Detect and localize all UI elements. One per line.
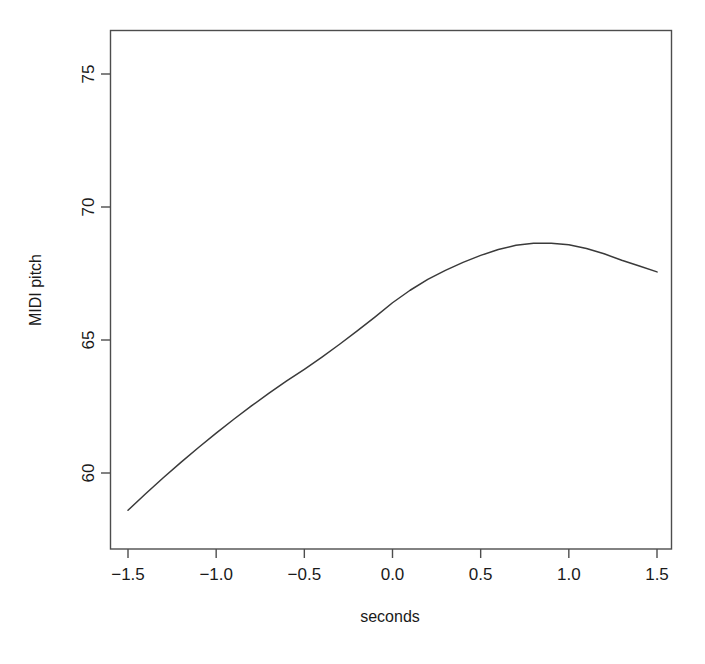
y-tick-label: 75	[79, 65, 98, 84]
x-axis-title: seconds	[360, 608, 420, 625]
x-tick-label: 1.0	[557, 565, 581, 584]
y-axis-tick-labels: 60657075	[79, 65, 98, 483]
x-tick-label: −1.0	[199, 565, 233, 584]
y-tick-label: 70	[79, 198, 98, 217]
y-tick-label: 65	[79, 331, 98, 350]
y-tick-label: 60	[79, 464, 98, 483]
data-series-line	[128, 243, 657, 510]
plot-border	[111, 31, 672, 550]
chart-figure: −1.5−1.0−0.50.00.51.01.5 60657075 second…	[0, 0, 705, 664]
x-axis-ticks	[128, 549, 657, 558]
y-axis-ticks	[101, 74, 110, 473]
y-axis-title: MIDI pitch	[27, 254, 44, 326]
x-tick-label: −1.5	[111, 565, 145, 584]
plot-canvas: −1.5−1.0−0.50.00.51.01.5 60657075 second…	[0, 0, 705, 664]
x-axis-tick-labels: −1.5−1.0−0.50.00.51.01.5	[111, 565, 669, 584]
x-tick-label: 1.5	[645, 565, 669, 584]
x-tick-label: 0.5	[469, 565, 493, 584]
x-tick-label: 0.0	[381, 565, 405, 584]
x-tick-label: −0.5	[288, 565, 322, 584]
data-series-group	[128, 243, 657, 510]
